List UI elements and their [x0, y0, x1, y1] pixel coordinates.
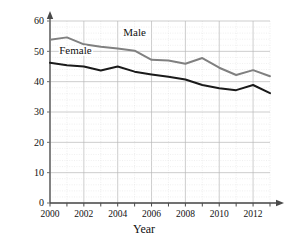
x-tick-label: 2002: [74, 209, 93, 219]
x-tick-label: 2012: [244, 209, 263, 219]
series-inline-labels: MaleMaleFemaleFemale: [59, 26, 146, 56]
x-tick-label: 2006: [142, 209, 161, 219]
y-tick-label: 50: [34, 46, 44, 57]
x-tick-label: 2000: [41, 209, 60, 219]
series-label-female: Female: [59, 44, 91, 56]
y-tick-label: 20: [34, 137, 44, 148]
y-tick-label: 60: [34, 15, 44, 26]
y-tick-labels: 0102030405060: [34, 15, 44, 208]
x-tick-label: 2008: [176, 209, 195, 219]
series-line-female: [50, 63, 270, 93]
plot-area: 0102030405060 20002002200420062008201020…: [0, 0, 288, 247]
axis-lines: [47, 11, 284, 206]
y-tick-label: 0: [39, 197, 44, 208]
x-axis-title: Year: [0, 222, 288, 237]
y-tick-label: 40: [34, 76, 44, 87]
line-chart-figure: Percent of 12th graders drinking 0102030…: [0, 0, 288, 247]
x-tick-label: 2004: [108, 209, 127, 219]
y-tick-label: 10: [34, 167, 44, 178]
x-tick-labels: 2000200220042006200820102012: [41, 209, 263, 219]
series-label-male: Male: [123, 26, 146, 38]
y-tick-label: 30: [34, 106, 44, 117]
x-tick-label: 2010: [210, 209, 229, 219]
series-line-male: [50, 37, 270, 76]
